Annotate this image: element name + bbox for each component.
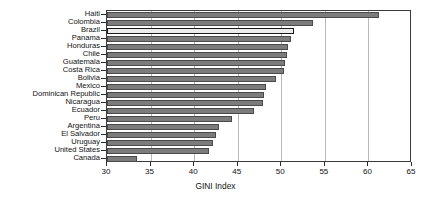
bar (107, 84, 266, 90)
gridline (325, 11, 326, 161)
bar (107, 124, 219, 130)
category-label: Canada (73, 154, 100, 162)
bar (107, 36, 291, 42)
x-axis-tick (237, 162, 238, 166)
gridline (368, 11, 369, 161)
bar (107, 76, 276, 82)
x-axis-tick-label: 65 (396, 167, 426, 176)
bar (107, 156, 137, 162)
gini-index-bar-chart: HaitiColombiaBrazilPanamaHondurasChileGu… (0, 0, 431, 197)
bar (107, 12, 379, 18)
bar (107, 28, 294, 34)
bar (107, 140, 213, 146)
x-axis-tick (411, 162, 412, 166)
bar (107, 116, 232, 122)
bar (107, 108, 254, 114)
x-axis-tick (106, 162, 107, 166)
x-axis-tick-label: 40 (178, 167, 208, 176)
bar (107, 100, 263, 106)
bar (107, 44, 288, 50)
bar (107, 20, 313, 26)
bar (107, 52, 287, 58)
plot-area (106, 10, 411, 162)
x-axis-label: GINI Index (0, 181, 431, 191)
x-axis-tick (280, 162, 281, 166)
x-axis-tick (367, 162, 368, 166)
x-axis-tick (193, 162, 194, 166)
x-axis-tick (324, 162, 325, 166)
x-axis-tick-label: 50 (265, 167, 295, 176)
x-axis-tick-label: 55 (309, 167, 339, 176)
bar (107, 68, 284, 74)
category-axis-labels: HaitiColombiaBrazilPanamaHondurasChileGu… (0, 10, 104, 162)
bar (107, 92, 264, 98)
x-axis-tick-label: 60 (352, 167, 382, 176)
x-axis-tick (150, 162, 151, 166)
x-axis-tick-label: 45 (222, 167, 252, 176)
bar (107, 132, 216, 138)
x-axis-tick-label: 30 (91, 167, 121, 176)
bar (107, 60, 285, 66)
bar (107, 148, 209, 154)
x-axis-tick-label: 35 (135, 167, 165, 176)
